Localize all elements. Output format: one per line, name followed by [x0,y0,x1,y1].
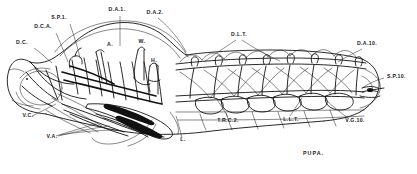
label-a: A. [107,42,113,47]
label-da2: D.A.2. [147,10,164,15]
leader-l [176,116,182,138]
leader-dca [56,33,68,62]
body-outline [7,22,379,134]
label-dc: D.C. [16,40,28,45]
label-vc: V.C. [22,113,33,118]
label-vg10: V.G.10. [345,118,365,123]
label-da1: D.A.1. [109,7,126,12]
label-l: L. [180,137,185,142]
label-llt: L.L.T. [283,117,298,122]
label-w: W. [139,39,146,44]
wing-structure [134,47,150,85]
figure-caption: PUPA. [303,150,324,156]
leader-llt [290,98,302,116]
head-marker [149,63,161,94]
label-trc2: T.R.C.2. [217,118,239,123]
segmental-connectives [190,65,358,98]
leader-trc2 [216,98,228,117]
head-capsule [9,68,62,109]
leader-va-1 [56,124,96,136]
appendage-fan [46,94,104,133]
label-dca: D.C.A. [34,24,52,29]
leader-vg10 [326,100,348,118]
lateral-longitudinal-trunk [176,90,364,102]
leader-dc [34,48,52,63]
pupa-anatomy-figure: D.C. D.C.A. S.P.1. D.A.1. D.A.2. D.L.T. … [0,0,417,174]
label-sp1: S.P.1. [51,15,67,20]
spiracle-1 [69,48,82,68]
segment-lacing [180,67,354,98]
pupa-drawing [0,0,417,174]
label-dlt: D.L.T. [231,32,247,37]
label-va: V.A. [46,134,57,139]
label-da10: D.A.10. [357,41,377,46]
label-sp10: S.P.10. [387,74,406,79]
label-h: H. [151,58,157,63]
